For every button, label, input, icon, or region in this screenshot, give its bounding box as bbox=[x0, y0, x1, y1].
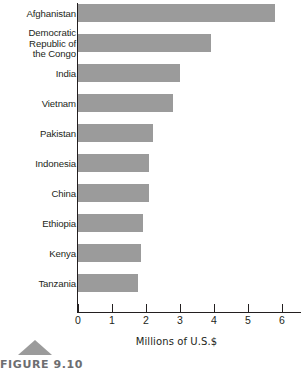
x-tick-mark bbox=[282, 304, 283, 312]
bar bbox=[78, 214, 143, 232]
bar bbox=[78, 154, 149, 172]
category-label: Tanzania bbox=[0, 279, 76, 290]
bar-row: Indonesia bbox=[0, 154, 301, 184]
x-tick-label: 6 bbox=[272, 314, 292, 326]
x-tick-mark bbox=[214, 304, 215, 312]
bar bbox=[78, 124, 153, 142]
category-label: Pakistan bbox=[0, 129, 76, 140]
bar bbox=[78, 4, 275, 22]
category-label: Ethiopia bbox=[0, 219, 76, 230]
x-tick-label: 4 bbox=[204, 314, 224, 326]
x-tick-label: 3 bbox=[170, 314, 190, 326]
bar bbox=[78, 184, 149, 202]
bar-chart: AfghanistanDemocratic Republic of the Co… bbox=[0, 0, 301, 316]
bar-row: Democratic Republic of the Congo bbox=[0, 34, 301, 64]
x-tick-label: 1 bbox=[102, 314, 122, 326]
bar bbox=[78, 244, 141, 262]
x-tick-mark bbox=[112, 304, 113, 312]
x-tick-label: 2 bbox=[136, 314, 156, 326]
category-label: China bbox=[0, 189, 76, 200]
x-tick-label: 5 bbox=[238, 314, 258, 326]
category-label: Kenya bbox=[0, 249, 76, 260]
triangle-marker-icon bbox=[18, 340, 52, 355]
bar-row: India bbox=[0, 64, 301, 94]
bar-row: Vietnam bbox=[0, 94, 301, 124]
x-tick-label: 0 bbox=[68, 314, 88, 326]
bar bbox=[78, 34, 211, 52]
bar-row: China bbox=[0, 184, 301, 214]
category-label: Afghanistan bbox=[0, 9, 76, 20]
bar bbox=[78, 94, 173, 112]
x-tick-mark bbox=[248, 304, 249, 312]
category-label: Vietnam bbox=[0, 99, 76, 110]
bar-row: Ethiopia bbox=[0, 214, 301, 244]
x-tick-mark bbox=[146, 304, 147, 312]
x-tick-mark bbox=[180, 304, 181, 312]
category-label: Democratic Republic of the Congo bbox=[0, 28, 76, 60]
category-label: India bbox=[0, 69, 76, 80]
bar-row: Pakistan bbox=[0, 124, 301, 154]
bar bbox=[78, 274, 138, 292]
figure-caption-label: FIGURE 9.10 bbox=[0, 358, 83, 371]
category-label: Indonesia bbox=[0, 159, 76, 170]
bar-row: Tanzania bbox=[0, 274, 301, 304]
bar-series: AfghanistanDemocratic Republic of the Co… bbox=[0, 0, 301, 312]
x-tick-mark bbox=[78, 304, 79, 312]
bar-row: Kenya bbox=[0, 244, 301, 274]
bar bbox=[78, 64, 180, 82]
